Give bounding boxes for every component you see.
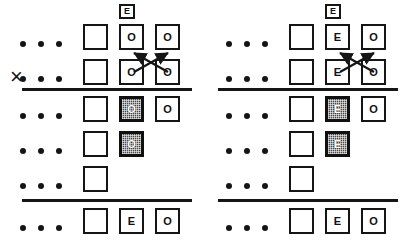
table-row: E O xyxy=(206,206,411,240)
ellipsis-dots xyxy=(226,76,278,86)
cell-token: E xyxy=(325,208,350,234)
cell-empty xyxy=(289,131,314,157)
cell-token: E xyxy=(325,24,350,50)
ellipsis-dots xyxy=(20,76,72,86)
cell-empty xyxy=(289,59,314,85)
section-divider xyxy=(218,88,398,91)
ellipsis-dots xyxy=(20,113,72,123)
figure-canvas: E × O O O O xyxy=(0,0,411,245)
cell-token-highlighted: O xyxy=(119,96,144,122)
cell-empty xyxy=(289,208,314,234)
cell-token: E xyxy=(325,59,350,85)
cell-token: O xyxy=(119,59,144,85)
cell-token: O xyxy=(119,24,144,50)
cell-token: O xyxy=(155,24,180,50)
cell-token-highlighted: E xyxy=(325,96,350,122)
cell-token: O xyxy=(361,208,386,234)
ellipsis-dots xyxy=(226,113,278,123)
cell-empty xyxy=(289,24,314,50)
ellipsis-dots xyxy=(20,225,72,235)
ellipsis-dots xyxy=(20,148,72,158)
cell-empty xyxy=(83,96,108,122)
table-row: E O xyxy=(206,57,411,91)
cell-token: O xyxy=(155,59,180,85)
cell-empty xyxy=(83,59,108,85)
panel-right: E E O E O xyxy=(206,0,411,245)
column-header-box-left: E xyxy=(119,4,135,19)
cell-empty xyxy=(83,131,108,157)
cell-empty xyxy=(289,166,314,192)
cell-token-highlighted: O xyxy=(119,131,144,157)
table-row xyxy=(0,164,205,198)
table-row: E O xyxy=(206,22,411,56)
cell-empty xyxy=(289,96,314,122)
ellipsis-dots xyxy=(20,183,72,193)
column-header-box-right: E xyxy=(325,4,341,19)
cell-token: E xyxy=(119,208,144,234)
cell-token-highlighted: E xyxy=(325,131,350,157)
table-row xyxy=(206,164,411,198)
cell-token: O xyxy=(361,24,386,50)
table-row: O O xyxy=(0,57,205,91)
section-divider xyxy=(218,199,398,202)
cell-token: O xyxy=(361,59,386,85)
panel-left: E × O O O O xyxy=(0,0,205,245)
ellipsis-dots xyxy=(226,183,278,193)
table-row: E xyxy=(206,129,411,163)
section-divider xyxy=(22,199,192,202)
ellipsis-dots xyxy=(226,41,278,51)
table-row: O O xyxy=(0,22,205,56)
table-row: O xyxy=(0,129,205,163)
table-row: E O xyxy=(0,206,205,240)
cell-empty xyxy=(83,24,108,50)
table-row: O O xyxy=(0,94,205,128)
section-divider xyxy=(22,88,192,91)
ellipsis-dots xyxy=(20,41,72,51)
cell-empty xyxy=(83,166,108,192)
cell-token: O xyxy=(361,96,386,122)
cell-token: O xyxy=(155,208,180,234)
cell-empty xyxy=(83,208,108,234)
cell-token: O xyxy=(155,96,180,122)
table-row: E O xyxy=(206,94,411,128)
ellipsis-dots xyxy=(226,225,278,235)
ellipsis-dots xyxy=(226,148,278,158)
